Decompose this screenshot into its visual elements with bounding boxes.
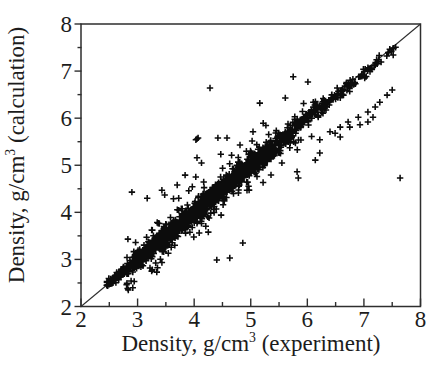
x-tick-label: 2	[75, 307, 87, 332]
x-axis-title-superscript: 3	[249, 330, 256, 345]
x-tick-label: 5	[245, 307, 257, 332]
x-tick-label: 3	[132, 307, 144, 332]
y-axis-title-unit-context: (calculation)	[4, 27, 29, 149]
scatter-points	[104, 44, 404, 293]
x-tick-label: 6	[302, 307, 314, 332]
y-axis-title: Density, g/cm3 (calculation)	[4, 0, 32, 325]
y-tick-label: 6	[61, 106, 73, 131]
x-axis-title: Density, g/cm3 (experiment)	[81, 331, 421, 357]
x-tick-label: 7	[358, 307, 370, 332]
y-axis-title-text: Density, g/cm	[4, 156, 29, 284]
y-tick-label: 3	[61, 247, 73, 272]
y-tick-label: 5	[61, 153, 73, 178]
y-tick-label: 7	[61, 59, 73, 84]
x-axis-title-text: Density, g/cm	[122, 331, 250, 356]
scatter-plot-svg: 23456782345678	[0, 0, 448, 369]
y-tick-label: 2	[61, 295, 73, 320]
y-tick-label: 4	[61, 200, 73, 225]
y-tick-label: 8	[61, 12, 73, 37]
x-tick-label: 8	[415, 307, 427, 332]
x-tick-label: 4	[188, 307, 200, 332]
x-axis-title-unit-context: (experiment)	[256, 331, 381, 356]
scatter-figure: 23456782345678 Density, g/cm3 (experimen…	[0, 0, 448, 369]
y-axis-title-superscript: 3	[3, 149, 18, 156]
